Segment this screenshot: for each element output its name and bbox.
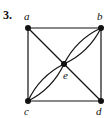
problem-number: 3. <box>3 8 12 22</box>
vertex-c <box>25 98 31 104</box>
edge-c-e-curve-2 <box>28 64 64 101</box>
vertex-label-a: a <box>24 10 30 22</box>
vertex-label-c: c <box>24 105 29 117</box>
vertex-label-e: e <box>63 69 68 81</box>
edge-c-e-curve-1 <box>28 64 64 101</box>
edge-a-e <box>28 28 64 64</box>
vertex-label-d: d <box>96 105 102 117</box>
vertex-label-b: b <box>97 10 103 22</box>
vertex-e <box>61 61 67 67</box>
graph-diagram: 3. a b c d e <box>0 0 111 118</box>
edge-b-e-curve-1 <box>64 28 101 64</box>
vertex-b <box>98 25 104 31</box>
edge-b-e-curve-2 <box>64 28 101 64</box>
vertex-a <box>25 25 31 31</box>
vertex-d <box>98 98 104 104</box>
edge-e-d <box>64 64 101 101</box>
